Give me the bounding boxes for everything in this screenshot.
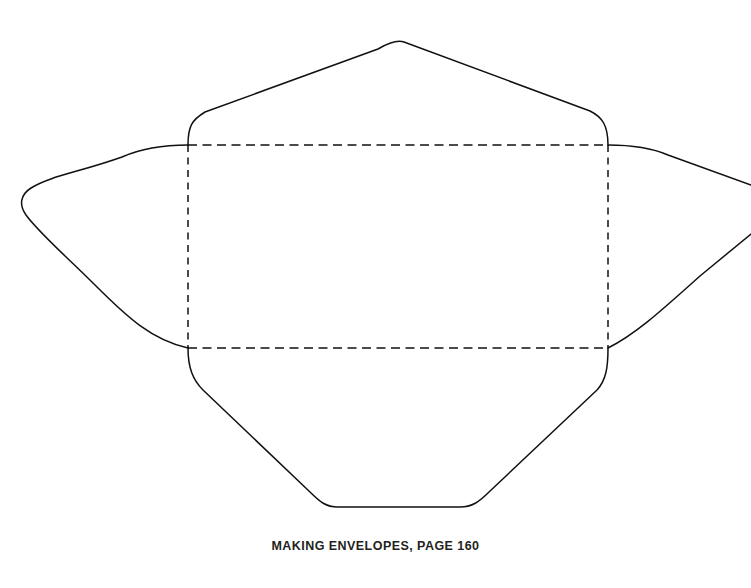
bottom-flap-outline	[188, 348, 608, 507]
top-flap-outline	[188, 41, 608, 145]
right-flap-lower-outline	[608, 234, 751, 348]
diagram-caption: MAKING ENVELOPES, PAGE 160	[0, 539, 751, 553]
right-flap-upper-outline	[608, 145, 751, 185]
envelope-template-diagram	[0, 0, 751, 588]
template-page: MAKING ENVELOPES, PAGE 160	[0, 0, 751, 588]
left-flap-outline	[22, 145, 188, 348]
